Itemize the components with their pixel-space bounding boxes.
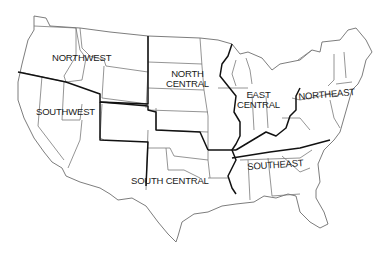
region-label-north-central: NORTH CENTRAL	[166, 69, 209, 89]
region-name-line2: CENTRAL	[166, 79, 209, 89]
region-name: SOUTH CENTRAL	[131, 175, 209, 186]
region-label-east-central: EAST CENTRAL	[237, 90, 280, 110]
region-label-northwest: NORTHWEST	[52, 53, 111, 63]
us-regions-map: NORTHWEST SOUTHWEST NORTH CENTRAL SOUTH …	[0, 0, 382, 253]
region-name-line2: CENTRAL	[237, 100, 280, 110]
region-name: NORTHWEST	[52, 52, 111, 63]
region-label-southwest: SOUTHWEST	[36, 107, 95, 117]
region-name: SOUTHWEST	[36, 106, 95, 117]
region-label-south-central: SOUTH CENTRAL	[131, 176, 209, 186]
us-map-svg	[0, 0, 382, 253]
us-outline	[18, 16, 372, 242]
